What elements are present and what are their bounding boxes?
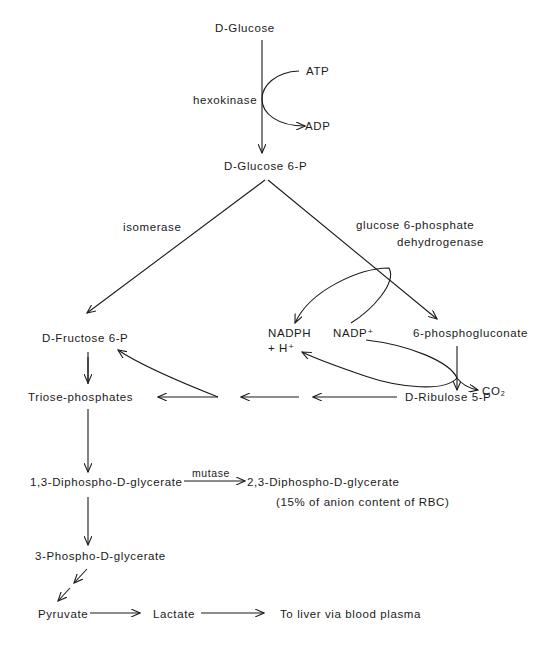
node-d-fructose-6-p: D-Fructose 6-P [42,332,128,344]
node-3-phospho-glycerate: 3-Phospho-D-glycerate [35,550,166,562]
node-nadp-plus: NADP⁺ [333,327,374,339]
arrow-atp-to-adp [262,71,305,126]
arrow-to-fructose6p [118,350,218,397]
node-23-dpg: 2,3-Diphospho-D-glycerate [247,476,399,488]
node-atp: ATP [306,65,329,77]
node-triose-phosphates: Triose-phosphates [28,391,133,403]
arrow-3pg-step2 [58,588,70,601]
node-adp: ADP [305,120,330,132]
node-pyruvate: Pyruvate [38,608,88,620]
node-h-plus: + H⁺ [268,342,295,354]
arrow-g6p-to-fructose6p [87,180,265,313]
node-d-ribulose-5-p: D-Ribulose 5-P [405,391,491,403]
node-d-glucose-6-p: D-Glucose 6-P [224,160,307,172]
pathway-diagram: D-Glucose hexokinase ATP ADP D-Glucose 6… [0,0,556,663]
enzyme-g6pd-line1: glucose 6-phosphate [356,219,474,231]
arrow-g6p-to-6-phosphogluconate [268,180,437,319]
arrow-nadp-to-nadph-2 [302,340,457,387]
node-nadph: NADPH [268,327,311,339]
note-23-dpg: (15% of anion content of RBC) [276,496,449,508]
node-13-dpg: 1,3-Diphospho-D-glycerate [30,476,182,488]
arrow-co2-release [457,378,478,390]
node-lactate: Lactate [153,608,195,620]
enzyme-g6pd-line2: dehydrogenase [397,236,484,248]
enzyme-isomerase: isomerase [123,221,181,233]
arrow-3pg-step1 [74,569,87,583]
node-d-glucose: D-Glucose [215,22,275,34]
arrow-nadp-to-nadph-1 [295,268,391,323]
node-6-phosphogluconate: 6-phosphogluconate [413,327,528,339]
node-to-liver: To liver via blood plasma [280,608,421,620]
enzyme-hexokinase: hexokinase [193,94,257,106]
enzyme-mutase: mutase [192,467,230,479]
